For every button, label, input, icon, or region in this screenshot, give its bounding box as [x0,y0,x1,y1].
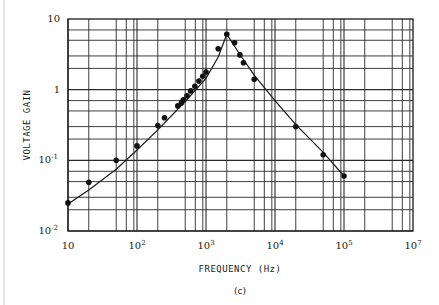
x-axis-label: FREQUENCY (Hz) [199,264,282,274]
data-point [188,88,194,94]
data-point [215,46,221,52]
figure-caption: (c) [234,286,246,296]
y-tick-label: 10-1 [38,153,58,165]
y-tick-label: 10-2 [38,224,58,236]
data-point [293,124,299,130]
data-point [251,77,257,83]
x-axis-ticks: 10102103104105107 [62,239,422,251]
data-point [237,52,243,58]
data-point [232,40,238,46]
x-tick-label: 10 [62,240,75,251]
y-tick-label: 1 [54,84,60,95]
x-tick-label: 103 [197,239,214,251]
data-point [155,123,161,129]
data-point [203,69,209,75]
data-point [320,152,326,158]
x-tick-label: 102 [128,239,145,251]
data-point [113,158,119,164]
data-point [224,31,230,37]
data-point [65,200,71,206]
x-tick-label: 104 [266,239,284,251]
y-axis-label: VOLTAGE GAIN [22,89,32,160]
data-point [192,83,198,89]
data-point [162,115,168,121]
data-point [196,78,202,84]
y-tick-label: 10 [47,13,60,24]
chart: 10102103104105107 10110-110-2 FREQUENCY … [0,0,439,305]
y-axis-ticks: 10110-110-2 [38,13,60,236]
data-point [86,179,92,185]
grid [68,19,413,231]
data-point [184,93,190,99]
data-point [341,173,347,179]
data-point [241,60,247,66]
x-tick-label: 105 [335,239,352,251]
x-tick-label: 107 [404,239,421,251]
plot-frame [68,19,413,231]
data-point [134,143,140,149]
